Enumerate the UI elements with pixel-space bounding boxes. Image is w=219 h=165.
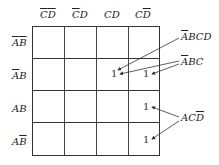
- annotation-arrows: [0, 0, 219, 165]
